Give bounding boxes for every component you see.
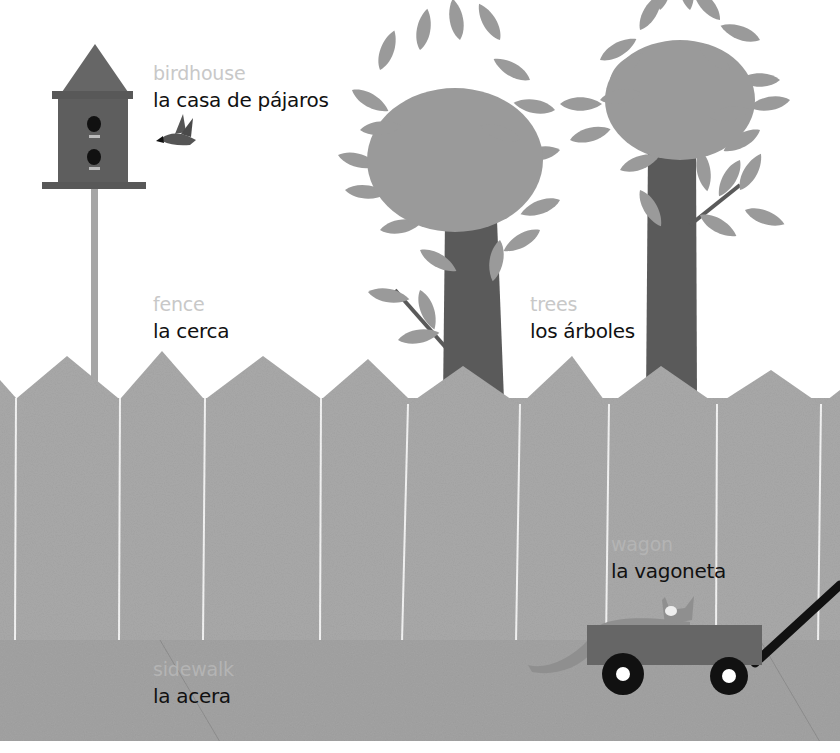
label-sidewalk-english: sidewalk (153, 660, 234, 679)
label-wagon: wagon la vagoneta (611, 535, 726, 581)
label-trees: trees los árboles (530, 295, 635, 341)
page-bottom-margin (0, 741, 840, 753)
fence (0, 351, 840, 642)
tree-left (336, 0, 562, 400)
label-sidewalk: sidewalk la acera (153, 660, 234, 706)
label-fence-spanish: la cerca (153, 321, 229, 341)
label-trees-spanish: los árboles (530, 321, 635, 341)
bird (156, 114, 196, 145)
label-birdhouse-spanish: la casa de pájaros (153, 90, 329, 110)
illustration-scene (0, 0, 840, 753)
label-trees-english: trees (530, 295, 635, 314)
birdhouse-pole (91, 188, 98, 388)
label-fence: fence la cerca (153, 295, 229, 341)
birdhouse (42, 44, 146, 189)
label-birdhouse-english: birdhouse (153, 64, 329, 83)
label-fence-english: fence (153, 295, 229, 314)
label-wagon-english: wagon (611, 535, 726, 554)
label-wagon-spanish: la vagoneta (611, 561, 726, 581)
label-sidewalk-spanish: la acera (153, 686, 234, 706)
label-birdhouse: birdhouse la casa de pájaros (153, 64, 329, 110)
